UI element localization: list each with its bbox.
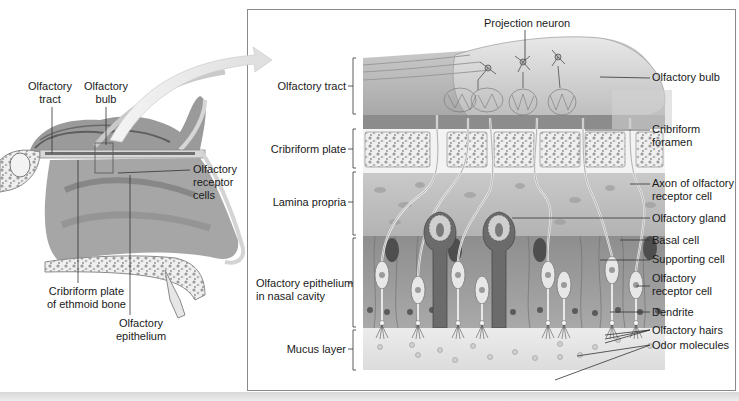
label-cribriform-plate: Cribriform plate bbox=[271, 143, 346, 156]
label-basal-cell: Basal cell bbox=[652, 234, 699, 247]
label-olfactory-receptor-cell: Olfactory receptor cell bbox=[652, 272, 712, 298]
label-olfactory-gland: Olfactory gland bbox=[652, 212, 726, 225]
label-dendrite: Dendrite bbox=[652, 306, 694, 319]
label-olfactory-tract: Olfactory tract bbox=[278, 80, 346, 93]
layer-brackets bbox=[348, 58, 356, 370]
label-olfactory-bulb: Olfactory bulb bbox=[652, 71, 720, 84]
label-overview-olfactory-receptor-cells: Olfactory receptor cells bbox=[193, 163, 237, 202]
label-mucus-layer: Mucus layer bbox=[287, 343, 346, 356]
label-projection-neuron: Projection neuron bbox=[484, 17, 570, 30]
label-overview-olfactory-epithelium: Olfactory epithelium bbox=[116, 317, 166, 343]
label-lamina-propria: Lamina propria bbox=[273, 196, 346, 209]
label-overview-cribriform-plate: Cribriform plate of ethmoid bone bbox=[47, 285, 126, 311]
label-supporting-cell: Supporting cell bbox=[652, 253, 725, 266]
label-axon-olfactory-receptor-cell: Axon of olfactory receptor cell bbox=[652, 177, 734, 203]
label-olfactory-epithelium-nasal: Olfactory epithelium in nasal cavity bbox=[256, 277, 353, 303]
label-olfactory-hairs: Olfactory hairs bbox=[652, 324, 723, 337]
label-overview-olfactory-bulb: Olfactory bulb bbox=[84, 80, 128, 106]
diagram-artwork bbox=[0, 0, 739, 401]
page-bottom-edge bbox=[0, 392, 739, 401]
detail-illustration bbox=[363, 37, 672, 370]
label-cribriform-foramen: Cribriform foramen bbox=[652, 123, 700, 149]
label-overview-olfactory-tract: Olfactory tract bbox=[28, 80, 72, 106]
label-odor-molecules: Odor molecules bbox=[652, 339, 729, 352]
